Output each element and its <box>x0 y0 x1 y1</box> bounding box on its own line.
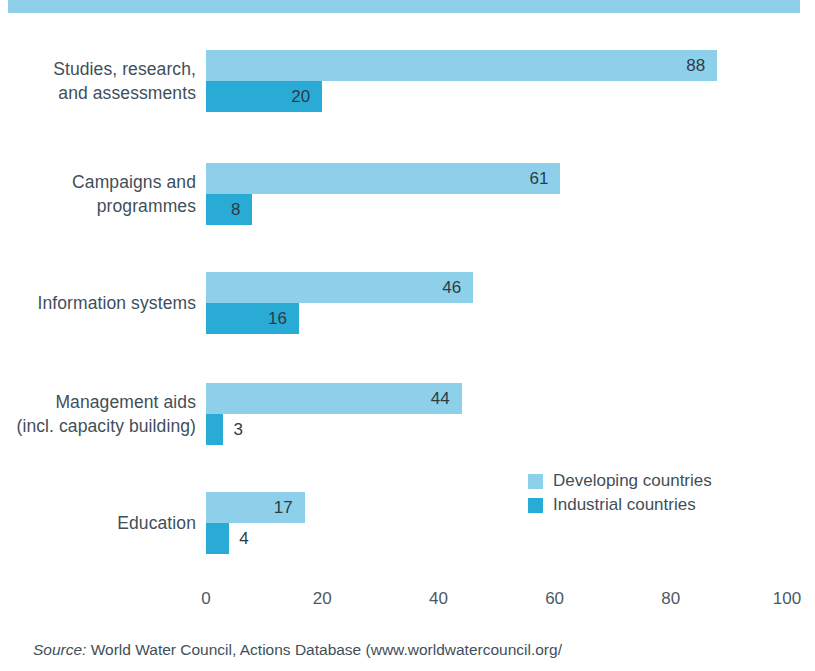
category-label: Education <box>10 511 196 535</box>
x-tick-label: 20 <box>313 589 332 609</box>
category-label: Studies, research,and assessments <box>10 57 196 105</box>
category-label-line: Studies, research, <box>10 57 196 81</box>
bar-value-label: 16 <box>268 303 287 334</box>
chart-legend: Developing countries Industrial countrie… <box>528 470 712 518</box>
category-label-line: (incl. capacity building) <box>10 414 196 438</box>
category-label-line: Management aids <box>10 390 196 414</box>
bar-industrial[interactable]: 4 <box>206 523 229 554</box>
bar-industrial[interactable]: 3 <box>206 414 223 445</box>
bar-value-label: 61 <box>529 163 548 194</box>
bar-fill-developing <box>206 50 717 81</box>
bar-developing[interactable]: 61 <box>206 163 560 194</box>
bar-fill-industrial <box>206 194 252 225</box>
bar-group: Campaigns andprogrammes618 <box>0 163 815 225</box>
category-label: Campaigns andprogrammes <box>10 170 196 218</box>
source-prefix: Source: <box>33 641 86 658</box>
bar-fill-developing <box>206 383 462 414</box>
bar-industrial[interactable]: 20 <box>206 81 322 112</box>
legend-swatch-developing-icon <box>528 474 543 489</box>
bar-group: Studies, research,and assessments8820 <box>0 50 815 112</box>
bar-value-label: 20 <box>291 81 310 112</box>
bar-developing[interactable]: 46 <box>206 272 473 303</box>
bar-group: Management aids(incl. capacity building)… <box>0 383 815 445</box>
bar-fill-developing <box>206 272 473 303</box>
category-label: Management aids(incl. capacity building) <box>10 390 196 438</box>
x-tick-label: 100 <box>773 589 801 609</box>
x-tick-label: 60 <box>545 589 564 609</box>
x-tick-label: 0 <box>201 589 210 609</box>
bar-value-label: 17 <box>274 492 293 523</box>
category-label-line: programmes <box>10 194 196 218</box>
legend-item-developing: Developing countries <box>528 470 712 492</box>
legend-label-industrial: Industrial countries <box>553 494 696 516</box>
bar-fill-industrial <box>206 523 229 554</box>
bar-value-label: 3 <box>233 414 242 445</box>
bar-developing[interactable]: 44 <box>206 383 462 414</box>
bar-value-label: 88 <box>686 50 705 81</box>
category-label-line: Campaigns and <box>10 170 196 194</box>
category-label-line: Education <box>10 511 196 535</box>
bar-value-label: 44 <box>431 383 450 414</box>
horizontal-bar-chart: Studies, research,and assessments8820Cam… <box>0 0 815 671</box>
bar-value-label: 8 <box>231 194 240 225</box>
x-axis: 020406080100 <box>0 589 815 615</box>
category-label-line: and assessments <box>10 81 196 105</box>
bar-value-label: 4 <box>239 523 248 554</box>
bar-fill-developing <box>206 163 560 194</box>
source-note: Source: World Water Council, Actions Dat… <box>33 641 562 659</box>
bar-developing[interactable]: 88 <box>206 50 717 81</box>
bar-developing[interactable]: 17 <box>206 492 305 523</box>
bar-value-label: 46 <box>442 272 461 303</box>
bar-fill-industrial <box>206 414 223 445</box>
legend-label-developing: Developing countries <box>553 470 712 492</box>
bar-group: Information systems4616 <box>0 272 815 334</box>
legend-item-industrial: Industrial countries <box>528 494 712 516</box>
bar-industrial[interactable]: 8 <box>206 194 252 225</box>
category-label-line: Information systems <box>10 291 196 315</box>
source-text: World Water Council, Actions Database (w… <box>86 641 562 658</box>
legend-swatch-industrial-icon <box>528 498 543 513</box>
category-label: Information systems <box>10 291 196 315</box>
bar-industrial[interactable]: 16 <box>206 303 299 334</box>
x-tick-label: 80 <box>661 589 680 609</box>
x-tick-label: 40 <box>429 589 448 609</box>
